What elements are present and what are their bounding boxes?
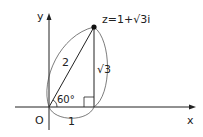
complex-plane-diagram: y x O z=1+√3i 2 √3 1 60° [0,0,203,137]
x-axis-arrow-icon [189,105,196,110]
axis-x-label: x [187,114,194,127]
point-label: z=1+√3i [102,13,150,26]
axis-y-label: y [37,10,44,23]
origin-label: O [35,114,44,127]
vertical-label: √3 [97,63,111,76]
x-axis [15,105,196,110]
hypotenuse-label: 2 [62,56,69,69]
y-axis-arrow-icon [47,13,52,20]
base-label: 1 [68,115,75,128]
point-z [91,24,96,29]
right-angle-marker [84,97,94,107]
angle-label: 60° [57,94,75,105]
